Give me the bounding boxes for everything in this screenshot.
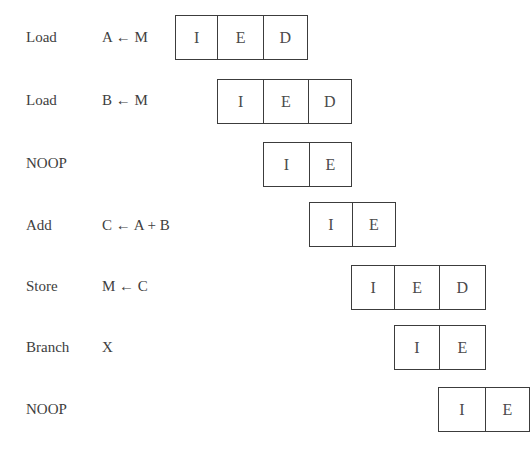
instruction-operand: M ← C [102, 278, 148, 295]
stage-instruction-fetch: I [218, 80, 263, 123]
pipeline-stages-row-5: I E D [351, 265, 486, 310]
stage-instruction-fetch: I [439, 388, 485, 431]
instruction-op: Branch [26, 339, 69, 356]
stage-data: D [439, 266, 485, 309]
stage-instruction-fetch: I [310, 203, 352, 246]
pipeline-stages-row-1: I E D [175, 15, 308, 60]
stage-instruction-fetch: I [264, 143, 309, 186]
pipeline-stages-row-2: I E D [217, 79, 352, 124]
stage-execute: E [309, 143, 351, 186]
pipeline-stages-row-3: I E [263, 142, 352, 187]
pipeline-stages-row-4: I E [309, 202, 396, 247]
instruction-op: NOOP [26, 155, 67, 172]
instruction-operand: X [102, 339, 113, 356]
instruction-op: NOOP [26, 401, 67, 418]
instruction-op: Load [26, 92, 57, 109]
pipeline-stages-row-7: I E [438, 387, 530, 432]
stage-instruction-fetch: I [352, 266, 394, 309]
stage-data: D [263, 16, 307, 59]
stage-data: D [308, 80, 351, 123]
pipeline-stages-row-6: I E [394, 325, 486, 370]
instruction-operand: A ← M [102, 29, 148, 46]
stage-execute: E [352, 203, 395, 246]
instruction-operand: B ← M [102, 92, 148, 109]
stage-execute: E [217, 16, 262, 59]
stage-instruction-fetch: I [395, 326, 439, 369]
stage-instruction-fetch: I [176, 16, 217, 59]
stage-execute: E [263, 80, 307, 123]
instruction-op: Load [26, 29, 57, 46]
stage-execute: E [394, 266, 438, 309]
stage-execute: E [439, 326, 485, 369]
instruction-operand: C ← A + B [102, 217, 170, 234]
stage-execute: E [485, 388, 529, 431]
instruction-op: Store [26, 278, 58, 295]
instruction-op: Add [26, 217, 52, 234]
